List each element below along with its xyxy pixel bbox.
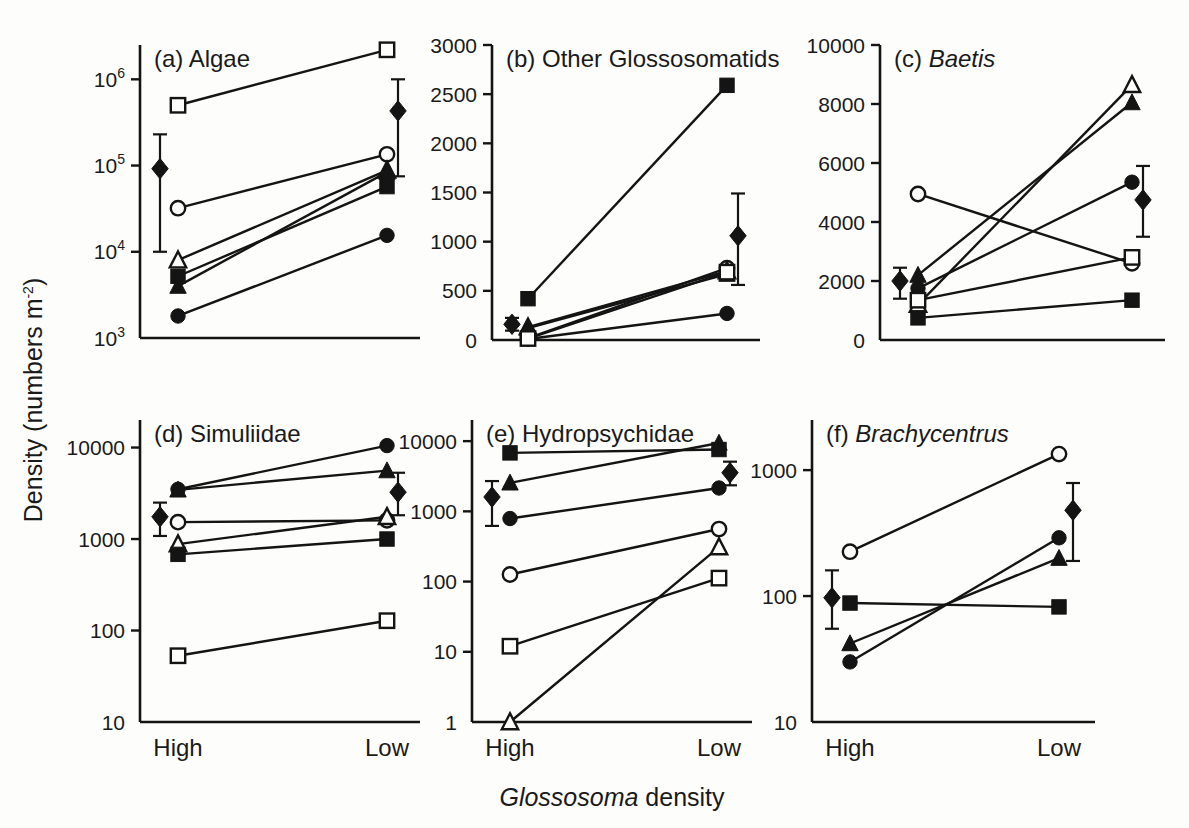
y-tick-label-b-3: 1500 [430,181,477,204]
data-point-f-filled-triangle-1 [1051,549,1067,565]
data-point-e-open-circle-1 [712,522,726,536]
y-tick-label-f-1: 100 [762,585,797,608]
data-point-f-filled-diamond-0 [824,588,840,608]
data-point-e-filled-circle-1 [712,481,726,495]
panel-b: 050010001500200025003000 [430,34,760,352]
y-tick-label-e-3: 1000 [410,500,457,523]
data-point-b-filled-square-0 [521,292,535,306]
data-point-b-open-square-1 [720,265,734,279]
data-point-d-filled-diamond-0 [152,507,168,527]
series-line-c-filled-square [918,300,1132,318]
panel-c: 0200040006000800010000 [807,34,1165,352]
y-axis-title: Density (numbers m-2) [19,278,47,522]
series-b-mean-diamond [504,193,746,334]
data-point-e-filled-diamond-1 [722,463,738,483]
series-line-f-open-circle [850,454,1059,552]
data-point-f-open-circle-0 [843,545,857,559]
six-panel-figure: 103104105106(a) Algae0500100015002000250… [0,0,1189,828]
data-point-e-filled-circle-0 [503,511,517,525]
data-point-c-open-square-0 [911,293,925,307]
data-point-b-filled-square-1 [720,78,734,92]
data-point-d-filled-square-0 [171,547,185,561]
series-line-e-open-triangle [510,547,719,722]
data-point-e-filled-square-0 [503,446,517,460]
data-point-c-open-square-1 [1125,250,1139,264]
data-point-f-filled-diamond-1 [1065,500,1081,520]
y-tick-label-a-3: 106 [94,65,125,91]
y-tick-label-c-3: 6000 [818,152,865,175]
data-point-d-open-square-0 [171,649,185,663]
data-point-a-open-circle-0 [171,201,185,215]
data-point-c-open-circle-0 [911,187,925,201]
series-line-d-filled-triangle [178,471,387,490]
series-line-c-open-circle [918,194,1132,263]
data-point-e-filled-diamond-0 [484,487,500,507]
y-tick-label-f-0: 10 [774,711,797,734]
data-point-b-filled-diamond-1 [730,226,746,246]
data-point-b-filled-circle-1 [720,306,734,320]
data-point-a-open-square-1 [380,43,394,57]
series-line-f-filled-square [850,603,1059,607]
data-point-e-open-triangle-1 [711,538,727,554]
y-tick-label-d-0: 10 [102,711,125,734]
panel-title-e: (e) Hydropsychidae [486,420,694,447]
panel-e: 110100100010000 [399,420,752,734]
data-point-e-open-square-0 [503,639,517,653]
data-point-b-open-square-0 [521,331,535,345]
data-point-d-filled-circle-1 [380,438,394,452]
series-line-e-open-circle [510,529,719,574]
panel-title-a: (a) Algae [154,45,250,72]
y-tick-label-c-1: 2000 [818,270,865,293]
x-axis-title: Glossosoma density [499,783,725,811]
data-point-a-open-triangle-0 [170,251,186,267]
data-point-f-filled-square-1 [1052,600,1066,614]
panel-title-d: (d) Simuliidae [154,420,301,447]
y-tick-label-b-5: 2500 [430,83,477,106]
y-tick-label-a-2: 105 [94,151,125,177]
data-point-a-filled-square-1 [380,179,394,193]
data-point-f-filled-square-0 [843,596,857,610]
data-point-a-open-square-0 [171,98,185,112]
panel-f: 101001000 [750,420,1095,734]
data-point-c-filled-triangle-0 [910,266,926,282]
data-point-c-filled-square-1 [1125,293,1139,307]
data-point-a-filled-circle-0 [171,309,185,323]
y-tick-label-c-4: 8000 [818,93,865,116]
figure-root: 103104105106(a) Algae0500100015002000250… [0,0,1189,828]
data-point-c-filled-diamond-0 [892,271,908,291]
series-line-d-open-square [178,621,387,656]
data-point-f-filled-circle-0 [843,655,857,669]
data-point-e-open-square-1 [712,571,726,585]
series-line-e-filled-triangle [510,443,719,483]
data-point-a-filled-circle-1 [380,228,394,242]
series-line-b-filled-square [528,85,727,298]
data-point-d-filled-square-1 [380,532,394,546]
series-line-b-filled-circle [528,313,727,339]
y-tick-label-c-2: 4000 [818,211,865,234]
series-line-c-open-square [918,257,1132,300]
y-tick-label-e-0: 1 [445,711,457,734]
y-tick-label-b-6: 3000 [430,34,477,57]
data-point-d-filled-diamond-1 [390,482,406,502]
series-line-f-filled-triangle [850,558,1059,643]
y-tick-label-d-2: 1000 [78,528,125,551]
y-tick-label-e-1: 10 [434,640,457,663]
y-tick-label-e-2: 100 [422,570,457,593]
panel-title-b: (b) Other Glossosomatids [506,45,779,72]
panel-a: 103104105106 [94,43,420,350]
series-line-d-filled-circle [178,446,387,490]
y-tick-label-d-3: 10000 [67,436,125,459]
x-category-label-d-low: Low [365,734,410,761]
y-tick-label-b-4: 2000 [430,132,477,155]
series-d-mean-diamond [152,473,406,536]
data-point-c-filled-square-0 [911,311,925,325]
data-point-d-open-square-1 [380,614,394,628]
data-point-c-open-triangle-1 [1124,76,1140,92]
x-category-label-e-high: High [485,734,534,761]
data-point-c-filled-diamond-1 [1135,190,1151,210]
y-tick-label-f-2: 1000 [750,459,797,482]
x-category-label-e-low: Low [697,734,742,761]
panel-d: 10100100010000 [67,420,420,734]
y-tick-label-c-5: 10000 [807,34,865,57]
series-line-d-filled-square [178,539,387,554]
